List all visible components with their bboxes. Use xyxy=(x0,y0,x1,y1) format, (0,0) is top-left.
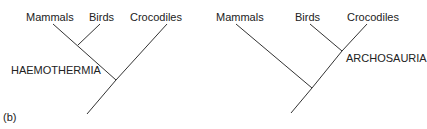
branch-birds xyxy=(310,24,342,51)
branch-birds xyxy=(78,24,100,45)
clade-label-archosauria: ARCHOSAURIA xyxy=(346,52,427,64)
taxon-label-crocodiles: Crocodiles xyxy=(347,11,399,23)
branch-root xyxy=(87,80,116,114)
archosauria-tree: Mammals Birds Crocodiles ARCHOSAURIA xyxy=(216,11,427,113)
haemothermia-tree: Mammals Birds Crocodiles HAEMOTHERMIA xyxy=(11,11,182,114)
cladogram-figure: Mammals Birds Crocodiles HAEMOTHERMIA Ma… xyxy=(0,0,427,129)
branch-archosaur-stem xyxy=(312,51,342,88)
branch-mammals xyxy=(236,24,312,88)
taxon-label-birds: Birds xyxy=(89,11,115,23)
branch-crocodiles xyxy=(116,24,167,80)
taxon-label-crocodiles: Crocodiles xyxy=(130,11,182,23)
taxon-label-birds: Birds xyxy=(295,11,321,23)
panel-label: (b) xyxy=(3,111,16,123)
branch-crocodiles xyxy=(342,24,367,51)
branch-root xyxy=(291,88,312,113)
clade-label-haemothermia: HAEMOTHERMIA xyxy=(11,64,102,76)
taxon-label-mammals: Mammals xyxy=(26,11,74,23)
taxon-label-mammals: Mammals xyxy=(216,11,264,23)
